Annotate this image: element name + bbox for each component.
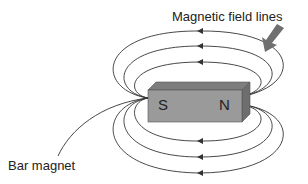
bar-magnet-label: Bar magnet: [8, 158, 75, 173]
leader-line: [58, 98, 148, 156]
north-pole-label: N: [219, 96, 230, 113]
magnetic-field-diagram: [0, 0, 308, 184]
south-pole-label: S: [158, 96, 168, 113]
field-lines-label: Magnetic field lines: [172, 9, 283, 24]
